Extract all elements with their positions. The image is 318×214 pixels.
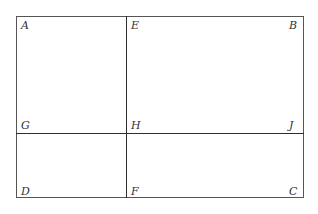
vertex-label-C: C: [289, 186, 297, 197]
vertex-label-B: B: [289, 20, 297, 31]
vertex-label-G: G: [21, 120, 30, 131]
outer-rectangle-ABCD: [16, 16, 304, 198]
vertex-label-D: D: [21, 186, 30, 197]
vertex-label-F: F: [131, 186, 139, 197]
vertex-label-H: H: [131, 120, 141, 131]
vertex-label-A: A: [21, 20, 29, 31]
segment-GJ: [16, 133, 304, 134]
segment-EF: [126, 16, 127, 198]
vertex-label-E: E: [131, 20, 139, 31]
rectangle-diagram: A E B G H J D F C: [0, 0, 318, 214]
vertex-label-J: J: [289, 120, 293, 131]
